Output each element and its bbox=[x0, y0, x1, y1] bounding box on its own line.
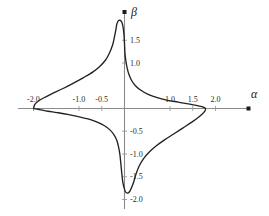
x-axis-tick-label: 2.0 bbox=[211, 95, 221, 104]
y-axis-tick-label: -1.5 bbox=[130, 172, 143, 181]
y-axis-tick-label: -2.0 bbox=[130, 195, 143, 204]
x-axis-tick-label: -2.0 bbox=[27, 95, 40, 104]
x-axis-label: α bbox=[251, 87, 257, 102]
data-curve bbox=[34, 20, 206, 193]
x-axis-endpoint-marker bbox=[247, 107, 251, 111]
y-axis-tick-label: 1.5 bbox=[130, 36, 140, 45]
x-axis-tick-label: 1.5 bbox=[188, 95, 198, 104]
plot-figure: -2.0-1.0-0.51.01.52.01.51.0-0.5-1.0-1.5-… bbox=[0, 0, 269, 216]
x-axis-tick-label: -1.0 bbox=[73, 95, 86, 104]
x-axis-tick-label: 1.0 bbox=[165, 95, 175, 104]
y-axis-tick-label: 1.0 bbox=[130, 59, 140, 68]
y-axis-tick-label: -0.5 bbox=[130, 127, 143, 136]
plot-canvas bbox=[0, 0, 269, 216]
y-axis-tick-label: -1.0 bbox=[130, 150, 143, 159]
y-axis-label: β bbox=[131, 5, 137, 20]
x-axis-tick-label: -0.5 bbox=[95, 95, 108, 104]
y-axis-endpoint-marker bbox=[123, 10, 127, 14]
